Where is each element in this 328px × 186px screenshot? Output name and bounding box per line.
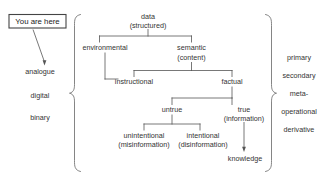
node-factual-line1: factual (221, 77, 243, 86)
node-intentional-line1: intentional (187, 131, 220, 140)
edge-untrue-children (144, 115, 200, 130)
edge-semantic-children (134, 63, 232, 77)
left-scale-item-analogue: analogue (25, 67, 55, 76)
left-scale-item-digital: digital (31, 91, 50, 100)
taxonomy-diagram: You are here analogue digital binary pri… (0, 0, 328, 186)
edge-environmental-instructional (105, 53, 118, 79)
node-knowledge: knowledge (228, 154, 262, 163)
node-semantic-line1: semantic (177, 43, 206, 52)
right-scale-item-primary: primary (287, 53, 311, 62)
node-data-line1: data (141, 12, 155, 21)
node-true: true (information) (224, 105, 264, 123)
you-are-here-label: You are here (15, 17, 59, 26)
node-data: data (structured) (130, 12, 167, 30)
node-true-line1: true (238, 105, 250, 114)
node-environmental: environmental (82, 43, 128, 52)
right-scale-item-derivative: derivative (284, 125, 315, 134)
right-scale-item-secondary: secondary (282, 71, 316, 80)
node-instructional: instructional (115, 77, 154, 86)
node-semantic: semantic (content) (177, 43, 206, 62)
you-are-here-marker: You are here (9, 15, 66, 29)
left-scale-item-binary: binary (30, 113, 50, 122)
node-untrue-line1: untrue (162, 105, 182, 114)
edge-true-knowledge-arrow (242, 122, 246, 152)
diagram-canvas: You are here analogue digital binary pri… (0, 0, 328, 186)
node-knowledge-line1: knowledge (228, 154, 262, 163)
node-intentional-line2: (disinformation) (178, 140, 228, 149)
right-scale-item-operational: operational (281, 107, 317, 116)
node-instructional-line1: instructional (115, 77, 154, 86)
node-data-line2: (structured) (130, 21, 167, 30)
left-brace (70, 15, 81, 172)
node-semantic-line2: (content) (177, 53, 205, 62)
node-unintentional: unintentional (misinformation) (118, 131, 170, 150)
node-unintentional-line2: (misinformation) (118, 140, 170, 149)
arrowhead-icon (242, 147, 246, 152)
node-unintentional-line1: unintentional (124, 131, 165, 140)
marker-to-analogue-arrow (33, 30, 46, 66)
node-factual: factual (221, 77, 243, 86)
node-environmental-line1: environmental (82, 43, 128, 52)
right-brace (266, 15, 277, 172)
right-scale-item-meta: meta- (290, 89, 309, 98)
edge-factual-children (172, 87, 232, 105)
node-intentional: intentional (disinformation) (178, 131, 228, 150)
edge-data-children (100, 30, 192, 43)
node-true-line2: (information) (224, 114, 264, 123)
node-untrue: untrue (162, 105, 182, 114)
arrowhead-icon (43, 60, 47, 65)
